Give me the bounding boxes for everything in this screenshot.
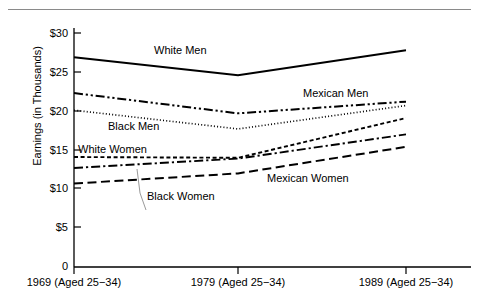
x-tick-label-1979: 1979 (Aged 25−34) xyxy=(168,276,308,288)
series-label-black-men: Black Men xyxy=(108,120,159,132)
series-label-white-women: White Women xyxy=(78,143,147,155)
series-layer xyxy=(74,50,406,183)
series-label-black-women: Black Women xyxy=(147,190,215,202)
series-label-mexican-men: Mexican Men xyxy=(303,87,368,99)
black-women-leader-line xyxy=(137,169,146,210)
series-label-mexican-women: Mexican Women xyxy=(267,172,349,184)
plot-area xyxy=(0,0,479,305)
x-tick-label-1989: 1989 (Aged 25−34) xyxy=(336,276,476,288)
series-label-white-men: White Men xyxy=(154,44,207,56)
chart-figure: Earnings (in Thousands) $30 $25 $20 $15 … xyxy=(0,0,479,305)
x-tick-label-1969: 1969 (Aged 25−34) xyxy=(4,276,144,288)
series-line-white-men xyxy=(74,50,406,75)
